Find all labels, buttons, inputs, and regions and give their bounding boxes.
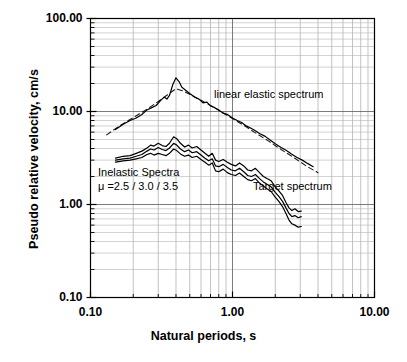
linear-elastic-spectrum-label: linear elastic spectrum xyxy=(214,88,323,100)
x-tick-label: 10.00 xyxy=(335,305,407,319)
x-axis-title: Natural periods, s xyxy=(0,329,407,343)
y-tick-label: 100.00 xyxy=(13,11,83,25)
y-tick-label: 1.00 xyxy=(13,197,83,211)
mu-values-label: μ =2.5 / 3.0 / 3.5 xyxy=(98,180,178,192)
x-tick-label: 0.10 xyxy=(51,305,131,319)
y-tick-label: 0.10 xyxy=(13,290,83,304)
target-spectrum-label: Target spectrum xyxy=(253,180,332,192)
chart-figure: Pseudo relative velocity, cm/s Natural p… xyxy=(0,0,407,362)
y-tick-label: 10.00 xyxy=(13,104,83,118)
y-axis-title: Pseudo relative velocity, cm/s xyxy=(27,29,41,289)
x-tick-label: 1.00 xyxy=(193,305,273,319)
inelastic-spectra-label: Inelastic Spectra xyxy=(98,166,179,178)
